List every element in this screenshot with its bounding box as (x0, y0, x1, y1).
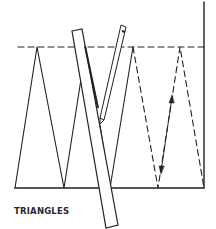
arrow-head-top-icon (169, 95, 174, 103)
ruler (72, 29, 118, 228)
arrow-head-bottom-icon (159, 166, 164, 174)
double-headed-arrow (161, 97, 172, 172)
figure-caption: TRIANGLES (14, 206, 69, 216)
solid-zigzag-triangles (15, 47, 84, 188)
triangles-diagram (0, 0, 216, 229)
dashed-zigzag-triangles (133, 47, 204, 188)
pencil (100, 25, 126, 124)
